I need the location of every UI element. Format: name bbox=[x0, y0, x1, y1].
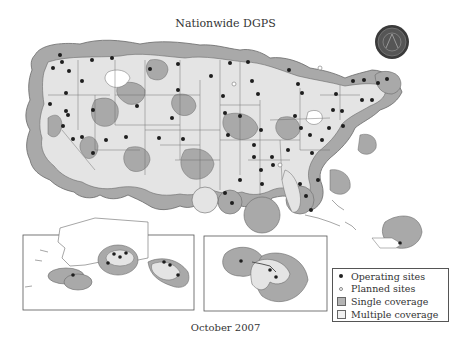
planned-site-icon bbox=[336, 284, 346, 294]
agency-seal-icon bbox=[375, 25, 409, 59]
legend-label: Multiple coverage bbox=[351, 309, 438, 320]
puerto-rico-inset bbox=[372, 216, 422, 248]
legend-item-single-coverage: Single coverage bbox=[336, 295, 448, 308]
legend-item-multiple-coverage: Multiple coverage bbox=[336, 308, 448, 321]
operating-site-icon bbox=[336, 271, 346, 281]
legend-label: Operating sites bbox=[351, 271, 425, 282]
legend-label: Single coverage bbox=[351, 296, 428, 307]
map-caption: October 2007 bbox=[0, 322, 451, 333]
hawaii-inset bbox=[204, 236, 327, 311]
single-coverage-swatch-icon bbox=[336, 296, 346, 306]
multiple-coverage-swatch-icon bbox=[336, 309, 346, 319]
legend: Operating sites Planned sites Single cov… bbox=[332, 268, 449, 322]
legend-label: Planned sites bbox=[351, 283, 415, 294]
alaska-inset bbox=[23, 218, 194, 310]
legend-item-operating-sites: Operating sites bbox=[336, 270, 448, 283]
legend-item-planned-sites: Planned sites bbox=[336, 283, 448, 296]
